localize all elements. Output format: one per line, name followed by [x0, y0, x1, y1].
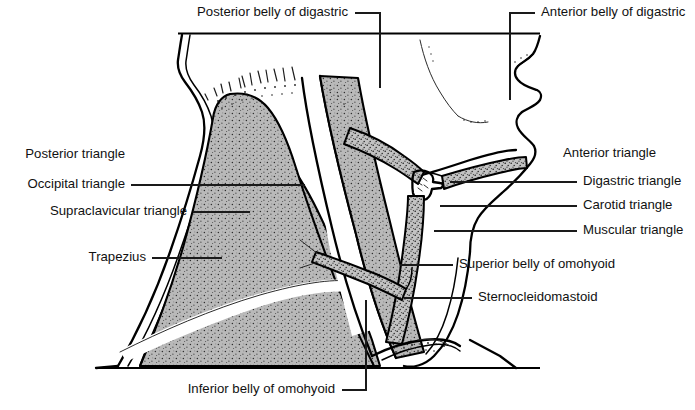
- label-superior-belly-of-omohyoid: Superior belly of omohyoid: [459, 256, 615, 271]
- label-carotid-triangle: Carotid triangle: [583, 197, 672, 212]
- label-trapezius: Trapezius: [89, 249, 147, 264]
- neck-anatomy-illustration: Posterior belly of digastric Anterior be…: [0, 0, 695, 410]
- label-anterior-triangle: Anterior triangle: [563, 145, 656, 160]
- label-sternocleidomastoid: Sternocleidomastoid: [478, 289, 598, 304]
- shoulder-corner-right: [470, 340, 516, 368]
- label-digastric-triangle: Digastric triangle: [583, 173, 681, 188]
- label-posterior-triangle: Posterior triangle: [25, 146, 125, 161]
- label-posterior-belly-of-digastric: Posterior belly of digastric: [197, 4, 348, 19]
- label-inferior-belly-of-omohyoid: Inferior belly of omohyoid: [188, 381, 335, 396]
- label-muscular-triangle: Muscular triangle: [583, 222, 683, 237]
- label-supraclavicular-triangle: Supraclavicular triangle: [50, 203, 187, 218]
- label-anterior-belly-of-digastric: Anterior belly of digastric: [541, 4, 686, 19]
- neck-triangles-figure: Posterior belly of digastric Anterior be…: [0, 0, 695, 410]
- label-occipital-triangle: Occipital triangle: [28, 176, 125, 191]
